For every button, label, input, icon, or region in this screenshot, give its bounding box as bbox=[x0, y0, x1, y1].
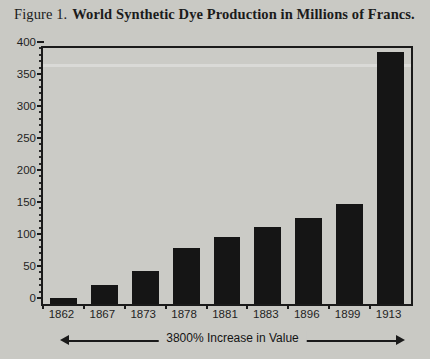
y-axis-labels: 050100150200250300350400 bbox=[0, 40, 36, 312]
plot-frame bbox=[41, 46, 413, 306]
x-tick-label: 1883 bbox=[253, 308, 279, 320]
y-tick-label: 100 bbox=[0, 228, 36, 240]
x-tick-label: 1881 bbox=[212, 308, 238, 320]
y-tick-label: 250 bbox=[0, 132, 36, 144]
y-tick-label: 200 bbox=[0, 164, 36, 176]
x-axis-labels: 186218671873187818811883189618991913 bbox=[41, 308, 413, 324]
bar bbox=[295, 218, 322, 304]
x-tick-label: 1873 bbox=[130, 308, 156, 320]
y-tick-label: 300 bbox=[0, 100, 36, 112]
y-tick-label: 400 bbox=[0, 36, 36, 48]
x-tick-label: 1862 bbox=[49, 308, 75, 320]
bar bbox=[336, 204, 363, 304]
increase-annotation: 3800% Increase in Value bbox=[60, 331, 405, 351]
x-tick-label: 1899 bbox=[335, 308, 361, 320]
annotation-label: 3800% Increase in Value bbox=[158, 331, 307, 345]
y-tick-label: 350 bbox=[0, 68, 36, 80]
bar bbox=[132, 271, 159, 304]
arrow-right-icon bbox=[396, 335, 405, 345]
bar bbox=[91, 285, 118, 304]
annotation-rule-right bbox=[293, 340, 398, 342]
bar bbox=[173, 248, 200, 304]
y-tick-label: 0 bbox=[0, 292, 36, 304]
bar bbox=[214, 237, 241, 304]
figure-title: Figure 1.World Synthetic Dye Production … bbox=[14, 6, 424, 26]
bar bbox=[377, 52, 404, 304]
x-tick-label: 1913 bbox=[376, 308, 402, 320]
y-tick-label: 50 bbox=[0, 260, 36, 272]
bar bbox=[254, 227, 281, 304]
plot-area bbox=[43, 48, 411, 304]
figure-container: Figure 1.World Synthetic Dye Production … bbox=[0, 0, 430, 359]
figure-caption-text: World Synthetic Dye Production in Millio… bbox=[72, 6, 415, 22]
y-tick-label: 150 bbox=[0, 196, 36, 208]
bar-series bbox=[43, 48, 411, 304]
x-tick-label: 1867 bbox=[90, 308, 116, 320]
x-tick-label: 1878 bbox=[171, 308, 197, 320]
x-tick-label: 1896 bbox=[294, 308, 320, 320]
figure-number: Figure 1. bbox=[14, 6, 67, 22]
